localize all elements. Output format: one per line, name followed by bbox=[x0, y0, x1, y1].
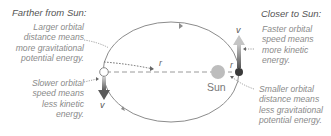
left-heading: Farther from Sun: bbox=[12, 7, 86, 18]
velocity-arrow-far bbox=[102, 77, 106, 91]
right-kinetic-note: Faster orbital speed means more kinetic … bbox=[262, 24, 331, 65]
leader-line-near-potential bbox=[232, 77, 254, 89]
planet-far bbox=[100, 68, 109, 77]
radius-label-near: r bbox=[230, 60, 234, 70]
leader-line-far-kinetic bbox=[84, 79, 97, 82]
sun-label: Sun bbox=[207, 81, 226, 93]
left-potential-note: Larger orbital distance means more gravi… bbox=[4, 22, 84, 63]
radius-arrow-far bbox=[104, 62, 153, 69]
velocity-label-near: v bbox=[236, 25, 241, 35]
sun bbox=[211, 65, 225, 79]
leader-line-far-potential bbox=[84, 40, 109, 48]
radius-label-far: r bbox=[159, 58, 163, 68]
right-potential-note: Smaller orbital distance means less grav… bbox=[259, 84, 331, 125]
velocity-arrow-near bbox=[237, 43, 241, 68]
left-kinetic-note: Slower orbital speed means less kinetic … bbox=[4, 78, 84, 119]
orbit-direction-arrow-top bbox=[179, 23, 183, 29]
planet-near bbox=[235, 68, 243, 76]
velocity-label-far: v bbox=[100, 100, 105, 110]
right-heading: Closer to Sun: bbox=[261, 8, 321, 19]
